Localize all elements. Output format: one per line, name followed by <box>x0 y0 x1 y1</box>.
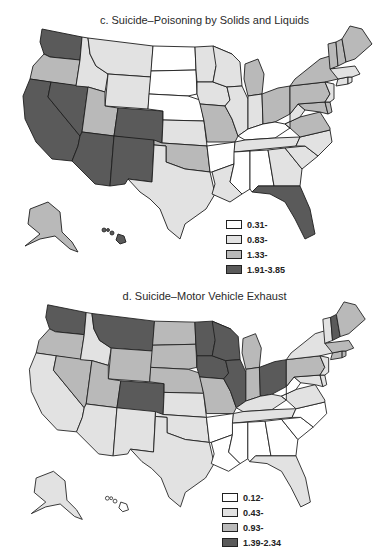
state-nm <box>110 136 154 186</box>
state-oh <box>262 86 290 124</box>
state-me <box>336 302 365 337</box>
legend-item: 1.33- <box>226 247 285 262</box>
legend-item: 1.91-3.85 <box>226 262 285 277</box>
legend-swatch <box>222 538 238 547</box>
state-sd <box>151 344 197 369</box>
legend-item: 0.43- <box>222 505 281 520</box>
legend-swatch <box>226 250 242 259</box>
state-oh <box>259 360 286 397</box>
legend-swatch <box>222 508 238 517</box>
legend-label: 0.31- <box>247 220 268 230</box>
legend-swatch <box>226 235 242 244</box>
state-ak <box>31 471 82 519</box>
state-hi <box>116 234 126 244</box>
state-nm <box>113 408 155 456</box>
state-mi <box>242 334 261 370</box>
hawaii-island-icon <box>110 497 113 500</box>
state-ri <box>348 77 352 84</box>
state-nd <box>153 321 196 345</box>
hawaii-island-icon <box>113 499 117 503</box>
hawaii-island-icon <box>107 229 110 232</box>
legend-item: 0.93- <box>222 520 281 535</box>
state-wi <box>212 321 240 360</box>
legend-item: 0.83- <box>226 232 285 247</box>
legend-label: 1.39-2.34 <box>243 538 281 548</box>
hawaii-island-icon <box>102 228 106 232</box>
legend-item: 1.39-2.34 <box>222 535 281 550</box>
state-sd <box>149 70 197 96</box>
legend-swatch <box>226 265 242 274</box>
state-wy <box>108 348 152 382</box>
state-wy <box>105 74 151 109</box>
state-me <box>342 26 372 62</box>
state-hi <box>119 502 129 512</box>
hawaii-island-icon <box>110 231 114 235</box>
legend-swatch <box>226 220 242 229</box>
state-nd <box>151 46 196 71</box>
us-choropleth-map-c <box>0 24 385 289</box>
legend-swatch <box>222 523 238 532</box>
state-mi <box>244 59 264 96</box>
legend-swatch <box>222 493 238 502</box>
state-ks <box>163 392 206 417</box>
legend-label: 1.33- <box>247 250 268 260</box>
legend-c: 0.31- 0.83- 1.33- 1.91-3.85 <box>226 217 285 277</box>
legend-d: 0.12- 0.43- 0.93- 1.39-2.34 <box>222 490 281 550</box>
legend-label: 1.91-3.85 <box>247 265 285 275</box>
legend-label: 0.43- <box>243 508 264 518</box>
us-choropleth-map-d <box>0 300 385 555</box>
legend-label: 0.12- <box>243 493 264 503</box>
state-in <box>246 367 260 401</box>
state-wi <box>213 46 242 87</box>
hawaii-island-icon <box>105 496 109 500</box>
state-ak <box>25 202 78 252</box>
legend-item: 0.31- <box>226 217 285 232</box>
legend-item: 0.12- <box>222 490 281 505</box>
state-ks <box>162 120 207 146</box>
legend-label: 0.93- <box>243 523 264 533</box>
legend-label: 0.83- <box>247 235 268 245</box>
state-in <box>248 94 263 129</box>
state-ri <box>342 351 346 358</box>
